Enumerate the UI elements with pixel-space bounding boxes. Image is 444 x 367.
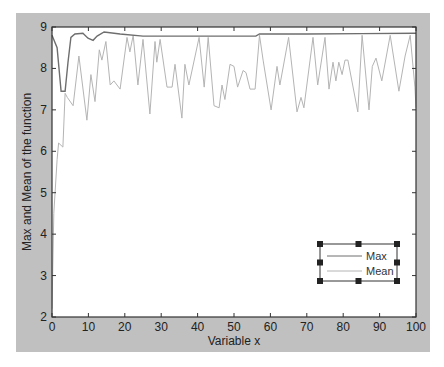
- resize-handle[interactable]: [317, 278, 323, 284]
- y-tick-label: 8: [40, 61, 47, 75]
- x-axis-label: Variable x: [208, 334, 260, 348]
- x-tick-label: 60: [264, 320, 278, 334]
- x-tick-label: 20: [118, 320, 132, 334]
- x-tick-label: 100: [406, 320, 426, 334]
- legend-mean-label: Mean: [366, 265, 394, 277]
- y-axis-label: Max and Mean of the function: [20, 93, 34, 251]
- x-tick-label: 90: [373, 320, 387, 334]
- x-tick-label: 10: [82, 320, 96, 334]
- resize-handle[interactable]: [394, 260, 400, 266]
- x-tick-label: 30: [155, 320, 169, 334]
- y-tick-label: 2: [40, 310, 47, 324]
- x-tick-label: 70: [300, 320, 314, 334]
- legend-max-label: Max: [366, 250, 387, 262]
- resize-handle[interactable]: [394, 241, 400, 247]
- y-tick-label: 6: [40, 144, 47, 158]
- legend[interactable]: Max Mean: [317, 241, 400, 284]
- line-chart: 010203040506070809010023456789 Variable …: [0, 0, 444, 367]
- x-tick-label: 0: [49, 320, 56, 334]
- resize-handle[interactable]: [394, 278, 400, 284]
- y-tick-label: 4: [40, 227, 47, 241]
- y-tick-label: 7: [40, 103, 47, 117]
- resize-handle[interactable]: [356, 278, 362, 284]
- x-tick-label: 80: [337, 320, 351, 334]
- resize-handle[interactable]: [317, 260, 323, 266]
- x-tick-label: 50: [227, 320, 241, 334]
- resize-handle[interactable]: [317, 241, 323, 247]
- y-tick-label: 5: [40, 186, 47, 200]
- resize-handle[interactable]: [356, 241, 362, 247]
- x-tick-label: 40: [191, 320, 205, 334]
- y-tick-label: 3: [40, 269, 47, 283]
- y-tick-label: 9: [40, 20, 47, 34]
